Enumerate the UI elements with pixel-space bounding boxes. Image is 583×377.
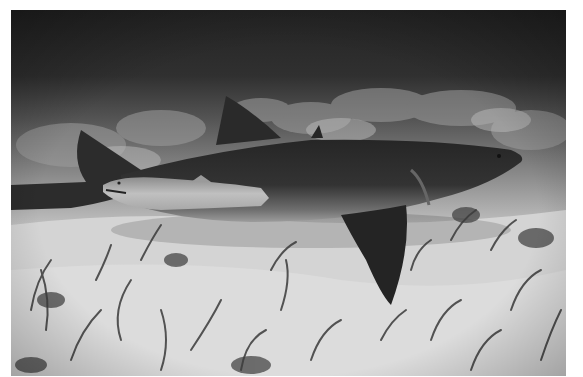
shark-scene	[11, 10, 566, 376]
underwater-photo	[11, 10, 566, 376]
